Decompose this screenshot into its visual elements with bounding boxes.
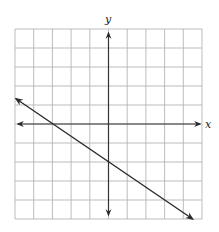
y-axis-label: y: [104, 13, 112, 26]
coordinate-plane: y x: [0, 0, 219, 232]
graphed-line: [16, 99, 193, 219]
x-axis-label: x: [205, 118, 212, 131]
